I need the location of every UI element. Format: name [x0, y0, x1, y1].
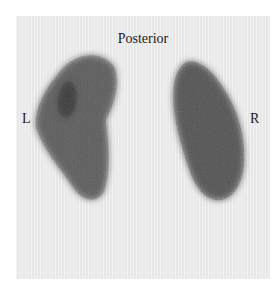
kidney-uptake-layer	[16, 16, 270, 279]
left-kidney	[36, 55, 117, 199]
right-kidney	[173, 61, 244, 200]
scintigraphy-image: Posterior L R	[16, 16, 270, 279]
